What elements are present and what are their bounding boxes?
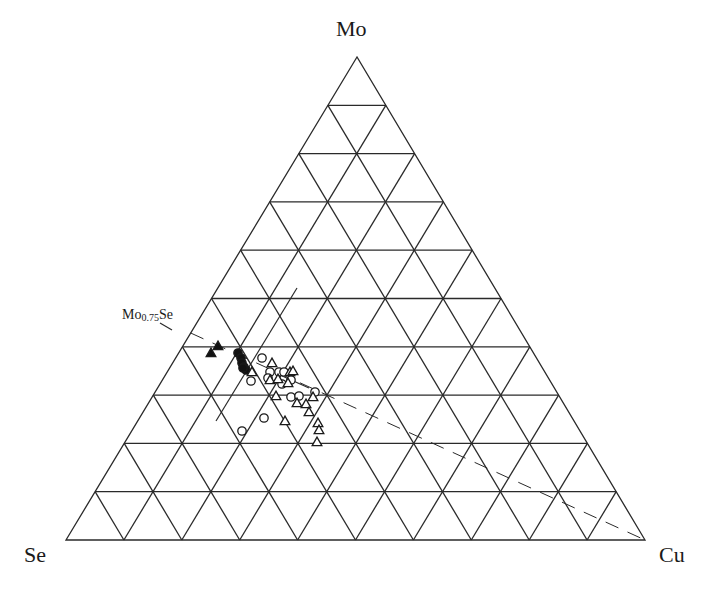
phase-label-main: Mo [122,307,141,322]
solid-tie-line [216,288,297,421]
grid-line-se [95,492,124,540]
ternary-grid [66,57,645,540]
filled-circle-marker [239,364,247,372]
open-circle-marker [287,393,295,401]
phase-label-mo075se: Mo0.75Se [122,307,173,323]
grid-line-se [270,202,472,540]
tie-lines [160,288,645,540]
ternary-diagram [0,0,726,597]
open-triangle-marker [304,407,314,415]
grid-line-cu [471,395,558,540]
open-triangle-marker [312,437,322,445]
vertex-label-se: Se [24,542,46,568]
solid-tie-line [160,323,172,330]
open-circle-marker [258,354,266,362]
filled-triangle-marker [213,341,223,349]
vertex-label-mo: Mo [336,16,367,42]
grid-line-cu [356,299,502,541]
vertex-label-cu: Cu [659,542,685,568]
grid-line-se [328,105,587,540]
open-circle-marker [238,427,246,435]
phase-label-tail: Se [159,307,173,322]
grid-line-se [153,395,239,540]
open-triangle-marker [280,416,290,424]
open-circle-marker [247,377,255,385]
open-circle-marker [260,414,268,422]
phase-label-sub: 0.75 [141,312,159,323]
open-triangle-marker [267,358,277,366]
open-triangle-marker [313,418,323,426]
